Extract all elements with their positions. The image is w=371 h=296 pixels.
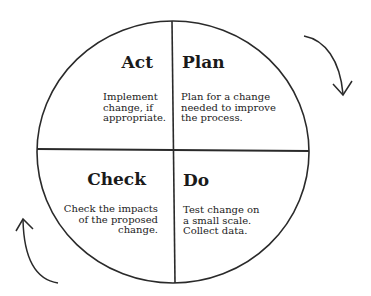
- do-line-3: Collect data.: [183, 226, 260, 237]
- act-line-3: appropriate.: [103, 113, 166, 124]
- arrow-up-icon: [16, 219, 58, 283]
- check-line-1: Check the impacts: [64, 204, 158, 215]
- act-description: Implement change, if appropriate.: [103, 92, 166, 124]
- horizontal-divider: [37, 149, 309, 151]
- act-title: Act: [122, 52, 153, 72]
- arrow-down-icon: [304, 36, 352, 95]
- diagram-graphics: [0, 0, 371, 296]
- do-title: Do: [183, 170, 209, 190]
- pdca-diagram: Act Implement change, if appropriate. Pl…: [0, 0, 371, 296]
- check-title: Check: [87, 169, 146, 189]
- vertical-divider: [172, 21, 175, 283]
- do-line-1: Test change on: [183, 205, 260, 216]
- plan-line-1: Plan for a change: [181, 92, 276, 103]
- plan-title: Plan: [182, 52, 225, 72]
- do-description: Test change on a small scale. Collect da…: [183, 205, 260, 237]
- plan-line-3: the process.: [181, 113, 276, 124]
- plan-description: Plan for a change needed to improve the …: [181, 92, 276, 124]
- check-line-3: change.: [64, 225, 158, 236]
- check-description: Check the impacts of the proposed change…: [64, 204, 158, 236]
- act-line-1: Implement: [103, 92, 166, 103]
